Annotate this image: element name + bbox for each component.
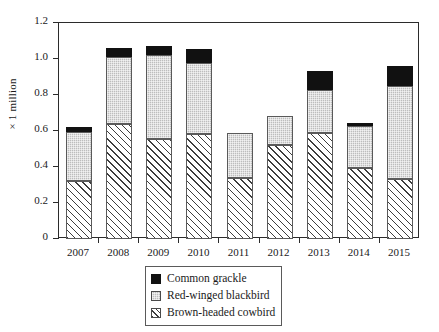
x-tick-mark [299, 238, 300, 243]
gray-dotted-swatch-icon [151, 291, 161, 301]
bar-2009 [146, 23, 172, 239]
x-tick-label: 2009 [138, 246, 178, 258]
y-axis-label: × 1 million [6, 68, 18, 140]
bar-segment-brown-headed-cowbird [106, 124, 132, 239]
bar-segment-brown-headed-cowbird [227, 178, 253, 239]
y-tick-label: 0.2 [34, 194, 48, 206]
y-tick-label: 0.4 [34, 158, 48, 170]
bar-2015 [387, 23, 413, 239]
bar-segment-common-grackle [186, 49, 212, 63]
bar-2013 [307, 23, 333, 239]
x-tick-mark [138, 238, 139, 243]
bar-segment-red-winged-blackbird [146, 55, 172, 139]
bar-segment-red-winged-blackbird [347, 126, 373, 168]
plot-area [58, 22, 419, 238]
bar-segment-common-grackle [146, 46, 172, 55]
stacked-bar-chart: × 1 million 00.20.40.60.81.01.2 20072008… [0, 0, 439, 332]
y-tick-label: 0.6 [34, 122, 48, 134]
y-tick-mark [53, 238, 59, 239]
bar-segment-red-winged-blackbird [227, 133, 253, 178]
bar-segment-red-winged-blackbird [66, 132, 92, 182]
bar-2012 [267, 23, 293, 239]
bar-2007 [66, 23, 92, 239]
bar-segment-red-winged-blackbird [267, 116, 293, 146]
bar-segment-brown-headed-cowbird [66, 181, 92, 239]
x-tick-mark [218, 238, 219, 243]
legend-item-label: Red-winged blackbird [167, 290, 270, 302]
legend-item: Common grackle [151, 270, 275, 287]
x-tick-label: 2011 [219, 246, 259, 258]
legend-item: Brown-headed cowbird [151, 304, 275, 321]
legend-item: Red-winged blackbird [151, 287, 275, 304]
diagonal-hatch-swatch-icon [151, 308, 161, 318]
solid-black-swatch-icon [151, 274, 161, 284]
x-tick-label: 2007 [58, 246, 98, 258]
x-tick-label: 2008 [98, 246, 138, 258]
bar-segment-common-grackle [307, 71, 333, 90]
bar-segment-brown-headed-cowbird [146, 139, 172, 239]
y-tick-label: 0 [43, 230, 49, 242]
x-tick-label: 2013 [299, 246, 339, 258]
bar-segment-brown-headed-cowbird [307, 133, 333, 239]
x-tick-mark [379, 238, 380, 243]
y-tick-label: 0.8 [34, 86, 48, 98]
x-tick-mark [178, 238, 179, 243]
bar-segment-common-grackle [387, 66, 413, 86]
y-tick-label: 1.2 [34, 14, 48, 26]
bar-segment-brown-headed-cowbird [186, 134, 212, 239]
bar-segment-common-grackle [66, 127, 92, 132]
bar-segment-red-winged-blackbird [186, 63, 212, 134]
bar-segment-red-winged-blackbird [307, 90, 333, 133]
x-tick-label: 2012 [259, 246, 299, 258]
bar-segment-brown-headed-cowbird [387, 179, 413, 239]
x-tick-label: 2014 [339, 246, 379, 258]
bar-2010 [186, 23, 212, 239]
legend-item-label: Common grackle [167, 273, 247, 285]
bar-2011 [227, 23, 253, 239]
bar-segment-brown-headed-cowbird [267, 145, 293, 239]
x-tick-label: 2010 [178, 246, 218, 258]
bar-2014 [347, 23, 373, 239]
x-tick-label: 2015 [379, 246, 419, 258]
bar-segment-red-winged-blackbird [106, 57, 132, 124]
bar-segment-common-grackle [347, 123, 373, 126]
legend-item-label: Brown-headed cowbird [167, 307, 275, 319]
bar-segment-red-winged-blackbird [387, 86, 413, 179]
x-tick-mark [259, 238, 260, 243]
chart-legend: Common grackleRed-winged blackbirdBrown-… [145, 266, 282, 326]
bar-segment-brown-headed-cowbird [347, 168, 373, 239]
bar-2008 [106, 23, 132, 239]
x-tick-mark [339, 238, 340, 243]
x-tick-mark [98, 238, 99, 243]
y-tick-label: 1.0 [34, 50, 48, 62]
bar-segment-common-grackle [106, 48, 132, 57]
